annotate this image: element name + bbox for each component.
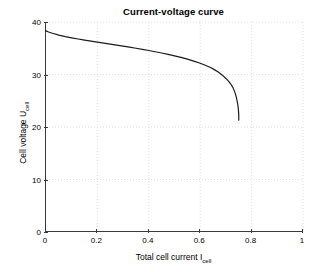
x-tick-label: 0.4 — [142, 236, 153, 245]
x-axis-label: Total cell current Icell — [45, 252, 302, 264]
y-axis-label: Cell voltage Ucell — [18, 63, 30, 203]
x-tick-label: 0.6 — [194, 236, 205, 245]
chart-title: Current-voltage curve — [45, 6, 302, 17]
x-tick-label: 0.2 — [91, 236, 102, 245]
x-tick-mark — [251, 229, 252, 233]
y-tick-mark — [44, 75, 48, 76]
y-tick-mark — [44, 180, 48, 181]
x-axis-label-subscript: cell — [202, 258, 211, 264]
figure-canvas: Current-voltage curve 00.20.40.60.81 010… — [0, 0, 321, 272]
y-tick-mark — [44, 127, 48, 128]
y-tick-mark — [44, 22, 48, 23]
x-tick-label: 1 — [300, 236, 304, 245]
x-tick-label: 0.8 — [245, 236, 256, 245]
x-tick-mark — [148, 229, 149, 233]
x-axis-label-main: Total cell current I — [136, 252, 203, 262]
x-tick-mark — [302, 229, 303, 233]
x-tick-label: 0 — [43, 236, 47, 245]
x-tick-mark — [96, 229, 97, 233]
y-axis-label-main: Cell voltage U — [18, 111, 28, 164]
plot-area — [45, 22, 302, 232]
y-tick-label: 0 — [19, 228, 41, 237]
y-axis-label-subscript: cell — [24, 102, 30, 111]
y-tick-mark — [44, 232, 48, 233]
x-tick-mark — [199, 229, 200, 233]
data-series-polarization-curve — [46, 22, 303, 232]
y-tick-label: 40 — [19, 18, 41, 27]
